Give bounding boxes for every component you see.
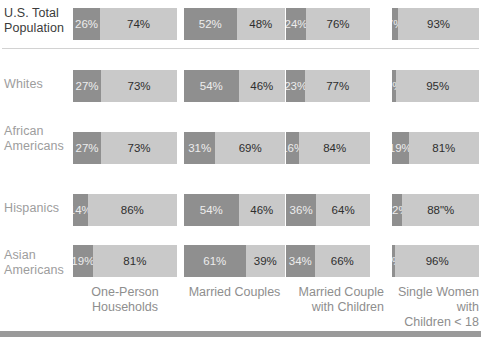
- bar-segment-light: 74%: [100, 8, 177, 40]
- footer-divider: [0, 331, 481, 337]
- bar-row4-col2: 34% 66%: [286, 245, 370, 277]
- bar-segment-light: 73%: [101, 132, 177, 164]
- bar-segment-light: 73%: [101, 70, 177, 102]
- bar-segment-light: 86%: [88, 194, 177, 226]
- bar-row1-col0: 27% 73%: [73, 70, 177, 102]
- bar-segment-dark: 34%: [286, 245, 315, 277]
- bar-segment-light: 48%: [237, 8, 285, 40]
- bar-row2-col3: 19% 81%: [392, 132, 479, 164]
- bar-segment-dark: 23%: [286, 70, 305, 102]
- bar-segment-light: 96%: [395, 245, 479, 277]
- row-label-asian-americans: Asian Americans: [4, 248, 70, 277]
- bar-row0-col3: 7% 93%: [392, 8, 479, 40]
- bar-segment-dark: 27%: [73, 132, 101, 164]
- bar-row3-col3: 12% 88"%: [392, 194, 479, 226]
- column-caption-married-couples: Married Couples: [184, 285, 285, 300]
- bar-segment-dark: 19%: [73, 245, 93, 277]
- column-caption-married-couple-with-children: Married Couple with Children: [286, 285, 384, 315]
- bar-segment-light: 69%: [215, 132, 285, 164]
- bar-row2-col2: 16% 84%: [286, 132, 370, 164]
- bar-segment-dark: 12%: [392, 194, 402, 226]
- bar-segment-light: 76%: [306, 8, 370, 40]
- bar-segment-light: 66%: [315, 245, 370, 277]
- bar-segment-light: 88"%: [402, 194, 479, 226]
- row-label-hispanics: Hispanics: [4, 201, 70, 216]
- column-caption-single-women-with-children: Single Women with Children < 18: [386, 285, 479, 330]
- bar-row1-col2: 23% 77%: [286, 70, 370, 102]
- bar-segment-dark: 19%: [392, 132, 409, 164]
- stacked-bar-chart: U.S. Total Population 26% 74% 52% 48% 24…: [0, 0, 481, 340]
- bar-row2-col0: 27% 73%: [73, 132, 177, 164]
- bar-segment-light: 77%: [305, 70, 370, 102]
- bar-row2-col1: 31% 69%: [184, 132, 285, 164]
- bar-segment-dark: 36%: [286, 194, 316, 226]
- row-label-whites: Whites: [4, 77, 70, 92]
- bar-row0-col0: 26% 74%: [73, 8, 177, 40]
- bar-row0-col1: 52% 48%: [184, 8, 285, 40]
- bar-segment-light: 84%: [299, 132, 370, 164]
- bar-segment-dark: 27%: [73, 70, 101, 102]
- bar-row4-col1: 61% 39%: [184, 245, 285, 277]
- bar-row4-col3: 4% 96%: [392, 245, 479, 277]
- bar-segment-dark: 24%: [286, 8, 306, 40]
- bar-row3-col2: 36% 64%: [286, 194, 370, 226]
- bar-segment-light: 46%: [239, 194, 285, 226]
- bar-segment-dark: 54%: [184, 70, 239, 102]
- bar-row3-col0: 14% 86%: [73, 194, 177, 226]
- bar-segment-light: 81%: [409, 132, 479, 164]
- bar-segment-dark: 14%: [73, 194, 88, 226]
- row-label-african-americans: African Americans: [4, 124, 70, 153]
- bar-segment-light: 46%: [239, 70, 285, 102]
- bar-segment-light: 93%: [398, 8, 479, 40]
- bar-segment-dark: 54%: [184, 194, 239, 226]
- column-caption-one-person-households: One-Person Households: [73, 285, 177, 315]
- bar-segment-light: 81%: [93, 245, 177, 277]
- header-divider: [2, 48, 479, 49]
- bar-segment-light: 95%: [396, 70, 479, 102]
- bar-row3-col1: 54% 46%: [184, 194, 285, 226]
- bar-row1-col3: 5% 95%: [392, 70, 479, 102]
- bar-row4-col0: 19% 81%: [73, 245, 177, 277]
- bar-row0-col2: 24% 76%: [286, 8, 370, 40]
- bar-segment-dark: 52%: [184, 8, 237, 40]
- bar-segment-dark: 16%: [286, 132, 299, 164]
- bar-row1-col1: 54% 46%: [184, 70, 285, 102]
- bar-segment-dark: 61%: [184, 245, 246, 277]
- bar-segment-dark: 31%: [184, 132, 215, 164]
- bar-segment-dark: 26%: [73, 8, 100, 40]
- row-label-us-total-population: U.S. Total Population: [4, 6, 70, 35]
- bar-segment-light: 64%: [316, 194, 370, 226]
- bar-segment-light: 39%: [246, 245, 285, 277]
